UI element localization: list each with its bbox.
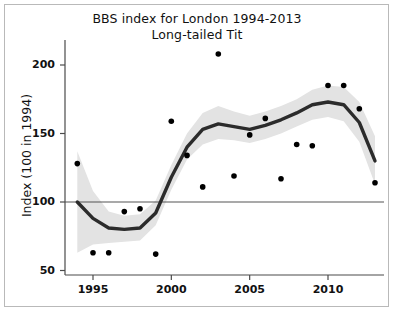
x-tick-label: 2010 [306,283,350,296]
data-point [106,250,112,256]
data-point [216,51,222,57]
plot-area [0,0,394,312]
data-point [325,83,331,89]
y-tick-label: 50 [21,264,55,277]
data-point [200,184,206,190]
data-point [357,106,363,112]
data-point [247,132,253,138]
data-point [90,250,96,256]
data-point [169,118,175,124]
data-point [341,83,347,89]
data-point [294,142,300,148]
data-point [372,180,378,186]
data-point [75,161,81,167]
data-point [122,209,128,215]
chart-figure: BBS index for London 1994-2013 Long-tail… [0,0,394,312]
y-tick-label: 100 [21,195,55,208]
data-point [278,176,284,182]
x-tick-label: 2000 [149,283,193,296]
data-point [184,153,190,159]
axis-lines [60,40,384,280]
y-tick-label: 200 [21,58,55,71]
data-point [310,143,316,149]
data-point [137,206,143,212]
x-tick-label: 2005 [228,283,272,296]
y-tick-label: 150 [21,127,55,140]
data-point [263,116,269,122]
x-tick-label: 1995 [71,283,115,296]
data-point [153,251,159,257]
data-point [231,173,237,179]
